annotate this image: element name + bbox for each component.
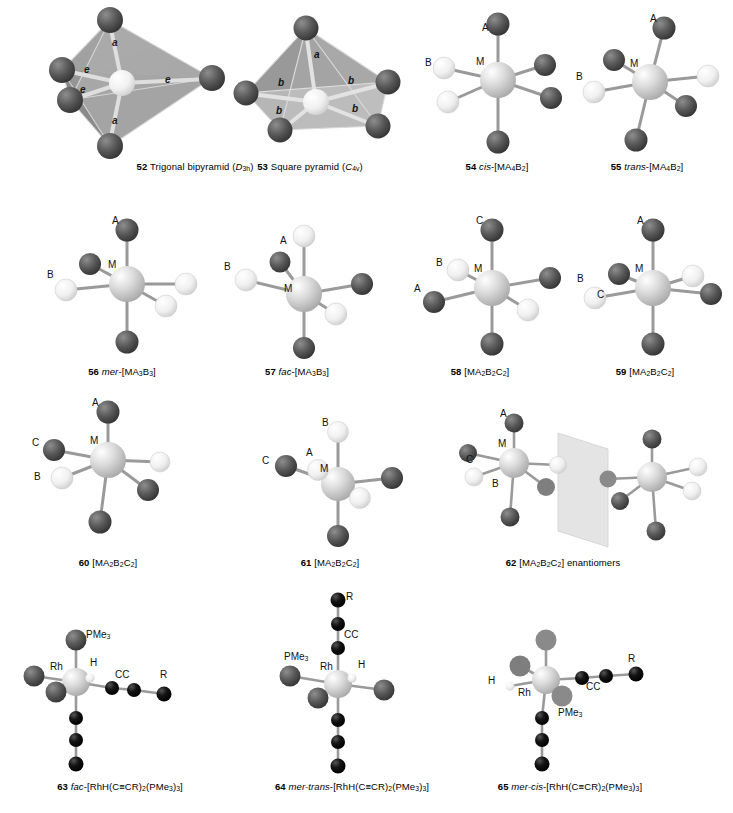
caption-point-group: D	[235, 161, 242, 172]
vertex-label-e: e	[84, 65, 90, 75]
ligand-atom-a	[643, 430, 662, 449]
ligand-atom-a	[270, 252, 291, 273]
vertex-label-b: b	[276, 106, 282, 116]
atom-label-H: H	[488, 676, 495, 686]
pme3-atom	[536, 630, 557, 651]
ligand-atom-b	[150, 452, 170, 472]
caption-formula-4: ]	[357, 557, 360, 568]
caption-formula-2: (PMe	[605, 781, 628, 792]
caption-point-group-sub: 3h	[242, 165, 250, 172]
atom-label-B: B	[576, 72, 583, 82]
metal-atom	[480, 62, 516, 98]
ligand-atom-b	[683, 482, 701, 500]
caption-number: 63	[57, 781, 68, 792]
alkyne-r-group	[69, 757, 84, 772]
ligand-atom-a2	[350, 488, 371, 509]
molecule-54-cis-ma4b2: A M B	[418, 10, 578, 155]
atom-label-C: C	[32, 438, 39, 448]
atom-label-A: A	[650, 14, 657, 24]
pme-sub: 3	[579, 711, 583, 718]
atom-label-A: A	[500, 409, 507, 419]
caption-formula-3: ]	[681, 161, 684, 172]
caption-number: 65	[498, 781, 509, 792]
caption-formula-3: ]	[526, 161, 529, 172]
metal-atom	[474, 270, 510, 306]
caption-isomer: fac	[279, 366, 292, 377]
caption-62: 62 [MA2B2C2] enantiomers	[506, 557, 621, 571]
molecule-58-ma2b2c2: C M B A	[412, 212, 572, 357]
ligand-atom-c	[537, 478, 555, 496]
pme-text: PMe	[284, 651, 305, 662]
pme-text: PMe	[86, 629, 107, 640]
metal-atom	[632, 64, 668, 100]
ligand-atom-a	[505, 414, 524, 433]
vertex-atom-equatorial	[49, 57, 75, 83]
caption-formula-4: ]	[507, 366, 510, 377]
ligand-atom-c	[700, 283, 722, 305]
caption-number: 55	[611, 161, 622, 172]
caption-formula-3: C	[124, 557, 131, 568]
ligand-atom-a	[540, 87, 562, 109]
ligand-atom-a	[89, 511, 112, 534]
atom-label-A: A	[280, 236, 287, 246]
caption-isomer: mer	[102, 366, 119, 377]
vertex-atom-axial-top	[97, 7, 123, 33]
atom-label-PMe3: PMe3	[284, 652, 308, 664]
caption-55: 55 trans-[MA4B2]	[611, 161, 684, 175]
atom-label-B: B	[492, 479, 499, 489]
caption-formula-4: ]	[672, 366, 675, 377]
molecule-59-ma2b2c2: A M B C	[575, 212, 733, 357]
atom-label-M: M	[498, 439, 506, 449]
figure-sheet: a a e e e 52 Trigonal bipyramid (D3h) a …	[0, 0, 733, 813]
alkyne-carbon	[331, 713, 345, 727]
vertex-atom-basal	[376, 70, 401, 95]
caption-formula-1: [MA	[90, 557, 110, 568]
alkyne-carbon	[331, 641, 345, 655]
caption-number: 64	[275, 781, 286, 792]
alkyne-carbon	[331, 735, 345, 749]
ligand-atom-c	[137, 479, 159, 501]
molecule-63-fac-rhh: PMe3 Rh H CC R	[8, 600, 208, 772]
caption-tail: )	[250, 161, 253, 172]
caption-number: 57	[265, 366, 276, 377]
caption-52: 52 Trigonal bipyramid (D3h)	[137, 161, 254, 175]
vertex-atom-basal	[268, 118, 293, 143]
vertex-label-a: a	[314, 50, 320, 60]
ligand-atom-b	[583, 81, 605, 103]
pme3-atom	[552, 686, 573, 707]
ligand-atom-a	[116, 331, 139, 354]
caption-name: Square pyramid (	[271, 161, 345, 172]
molecule-56-mer-ma3b3: A M B	[42, 212, 212, 357]
atom-label-PMe3: PMe3	[86, 630, 110, 642]
caption-suffix: enantiomers	[564, 557, 620, 568]
vertex-label-a: a	[112, 38, 118, 48]
atom-label-B: B	[577, 274, 584, 284]
caption-formula-1: -[MA	[491, 161, 511, 172]
ligand-atom-b	[325, 303, 347, 325]
ligand-atom-a	[642, 219, 665, 242]
caption-number: 59	[616, 366, 627, 377]
atom-label-Rh: Rh	[320, 662, 333, 672]
central-atom	[303, 89, 329, 115]
atom-label-A: A	[637, 216, 644, 226]
atom-label-M: M	[320, 464, 328, 474]
ligand-atom-a	[647, 522, 666, 541]
alkyne-carbon	[599, 669, 613, 683]
atom-label-A: A	[92, 398, 99, 408]
caption-formula-2: (PMe	[146, 781, 169, 792]
molecule-53-square-pyramid: a b b b b	[228, 18, 408, 153]
caption-number: 60	[79, 557, 90, 568]
mirror-plane	[558, 433, 608, 547]
atom-label-M: M	[630, 59, 638, 69]
atom-label-B: B	[436, 258, 443, 268]
alkyne-carbon	[535, 711, 549, 725]
caption-formula-4: ]	[180, 781, 183, 792]
ligand-atom-c	[43, 439, 65, 461]
molecule-64-mer-trans-rhh: R CC PMe3 Rh H	[250, 578, 450, 776]
atom-label-M: M	[474, 264, 482, 274]
atom-label-CC: CC	[115, 670, 129, 680]
ligand-atom-b	[437, 91, 459, 113]
caption-formula-3: C	[661, 366, 668, 377]
ligand-atom-a	[534, 54, 556, 76]
caption-60: 60 [MA2B2C2]	[79, 557, 138, 571]
